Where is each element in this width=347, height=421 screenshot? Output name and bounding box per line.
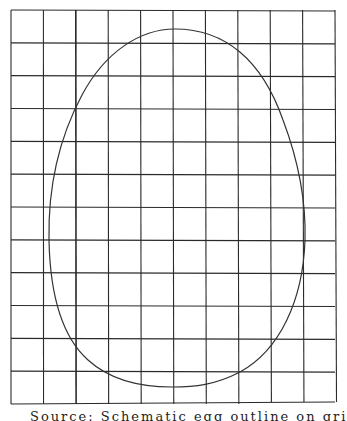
grid-horizontal-line — [11, 141, 335, 142]
grid-horizontal-line — [11, 371, 335, 372]
grid-horizontal-line — [11, 10, 335, 11]
grid-horizontal-line — [11, 273, 335, 274]
grid-horizontal-line — [11, 338, 335, 339]
grid-horizontal-line — [11, 402, 335, 404]
egg-grid-diagram — [0, 0, 347, 421]
grid-horizontal-line — [11, 109, 335, 110]
grid-horizontal-line — [11, 306, 335, 307]
grid-horizontal-line — [11, 43, 335, 44]
grid-vertical-line — [270, 10, 271, 402]
grid-horizontal-line — [11, 174, 335, 175]
grid-vertical-line — [335, 10, 337, 402]
grid-vertical-line — [205, 10, 206, 404]
grid-horizontal-line — [11, 240, 335, 241]
grid-lines — [11, 10, 337, 404]
figure-caption: Source: Schematic egg outline on grid (t… — [30, 410, 347, 421]
grid-horizontal-line — [11, 207, 335, 208]
grid-vertical-line — [238, 10, 239, 404]
grid-horizontal-line — [11, 76, 335, 77]
